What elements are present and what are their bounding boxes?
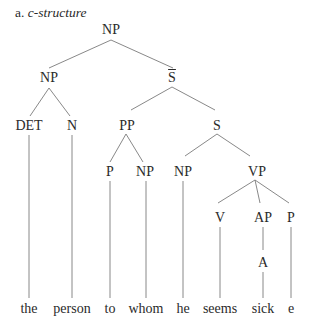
edge xyxy=(131,87,172,110)
node-s: S xyxy=(213,119,221,133)
edge xyxy=(126,134,143,162)
word-to: to xyxy=(105,302,116,316)
word-sick: sick xyxy=(252,302,275,316)
node-np-he: NP xyxy=(174,165,192,179)
node-np-whom: NP xyxy=(136,165,154,179)
word-he: he xyxy=(176,302,189,316)
edge xyxy=(218,180,255,203)
node-v: V xyxy=(215,211,225,225)
word-person: person xyxy=(53,302,90,316)
node-s-bar: S xyxy=(168,71,176,85)
word-the: the xyxy=(20,302,37,316)
edge xyxy=(255,180,289,203)
edge xyxy=(30,88,49,116)
node-a: A xyxy=(258,256,268,270)
edge xyxy=(49,88,70,116)
node-p-to: P xyxy=(106,165,114,179)
word-seems: seems xyxy=(203,302,237,316)
edge xyxy=(255,180,260,203)
edge xyxy=(172,87,215,110)
figure-title-prefix: a. xyxy=(15,5,24,20)
node-pp: PP xyxy=(119,119,135,133)
node-vp: VP xyxy=(248,165,266,179)
edge xyxy=(217,134,250,156)
edge xyxy=(185,134,217,156)
edge xyxy=(111,40,173,68)
node-np-root: NP xyxy=(102,23,120,37)
node-p-e: P xyxy=(287,211,295,225)
figure-title: a. c-structure xyxy=(15,6,86,20)
edge xyxy=(110,134,126,162)
node-det: DET xyxy=(15,119,42,133)
edge xyxy=(49,40,111,68)
figure-title-text: c-structure xyxy=(28,5,87,20)
node-np-left: NP xyxy=(40,71,58,85)
word-whom: whom xyxy=(129,302,164,316)
node-n: N xyxy=(67,119,77,133)
word-e: e xyxy=(288,302,294,316)
node-ap: AP xyxy=(254,211,272,225)
